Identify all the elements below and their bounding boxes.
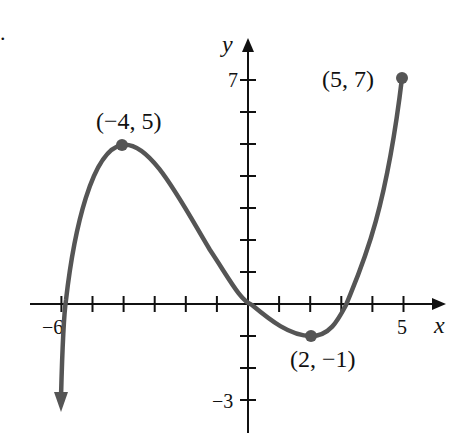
- annotation-2-neg1: (2, −1): [290, 346, 356, 372]
- point-2-neg1: [305, 330, 317, 342]
- x-tick-label-5: 5: [397, 316, 407, 338]
- point-5-7: [396, 72, 408, 84]
- annotation-neg4-5: (−4, 5): [96, 108, 162, 134]
- curve-end-arrow-icon: [54, 392, 68, 412]
- y-tick-label-neg3: −3: [212, 390, 233, 412]
- y-axis-label: y: [220, 31, 233, 57]
- point-neg4-5: [116, 139, 128, 151]
- function-graph: . −6 5 7 −3 y x (−4, 5) (2, −1) (5, 7): [0, 0, 466, 442]
- annotation-5-7: (5, 7): [322, 66, 374, 92]
- x-axis-label: x: [433, 312, 445, 338]
- x-tick-label-neg6: −6: [42, 316, 63, 338]
- y-tick-label-7: 7: [228, 69, 238, 91]
- figure-marker: .: [0, 20, 6, 45]
- x-axis-arrow-icon: [432, 298, 446, 310]
- y-axis-arrow-icon: [242, 38, 254, 52]
